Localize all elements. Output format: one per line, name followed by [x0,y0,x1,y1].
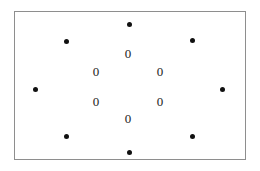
dot-bottom-center [127,150,132,155]
figure-canvas: 000000 [0,0,260,171]
dot-bottom-right [190,134,195,139]
dot-middle-right [220,87,225,92]
zero-top-center: 0 [125,47,132,60]
figure-frame [14,11,246,160]
zero-bottom-center: 0 [125,112,132,125]
dot-top-left [64,39,69,44]
zero-upper-right: 0 [157,65,164,78]
dot-bottom-left [64,134,69,139]
dot-top-right [190,38,195,43]
zero-lower-right: 0 [157,95,164,108]
zero-lower-left: 0 [93,95,100,108]
zero-upper-left: 0 [93,65,100,78]
dot-top-center [127,22,132,27]
dot-middle-left [33,87,38,92]
